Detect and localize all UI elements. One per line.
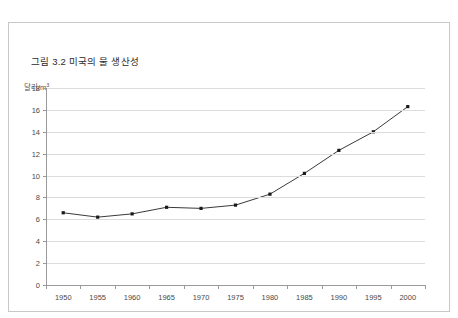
y-gridline <box>46 219 425 220</box>
y-gridline <box>46 88 425 89</box>
x-tick-mark <box>80 285 81 289</box>
water-productivity-line-series <box>46 88 425 285</box>
x-tick-mark <box>184 285 185 289</box>
y-gridline <box>46 263 425 264</box>
x-tick-label: 2000 <box>399 293 416 302</box>
series-data-point <box>303 172 306 175</box>
screenshot-page: · · · · · · · · · · · · · · · · · · · · … <box>0 0 458 318</box>
x-tick-label: 1960 <box>124 293 141 302</box>
y-tick-label: 2 <box>36 259 40 268</box>
x-tick-label: 1975 <box>227 293 244 302</box>
y-tick-label: 16 <box>32 105 40 114</box>
y-axis-unit-superscript: 3 <box>46 82 49 88</box>
y-tick-mark <box>43 197 47 198</box>
x-tick-mark <box>149 285 150 289</box>
y-tick-label: 14 <box>32 127 40 136</box>
y-tick-label: 4 <box>36 237 40 246</box>
figure-title: 그림 3.2 미국의 물 생산성 <box>31 54 139 68</box>
series-data-point <box>62 211 65 214</box>
series-line <box>63 107 408 218</box>
x-tick-mark <box>46 285 47 289</box>
y-gridline <box>46 197 425 198</box>
x-tick-mark <box>356 285 357 289</box>
truncated-header-text: · · · · · · · · · · · · · · · · · · · · … <box>0 0 458 11</box>
y-tick-mark <box>43 88 47 89</box>
y-gridline <box>46 110 425 111</box>
series-data-point <box>199 207 202 210</box>
y-tick-mark <box>43 154 47 155</box>
x-tick-mark <box>391 285 392 289</box>
x-tick-label: 1980 <box>262 293 279 302</box>
y-gridline <box>46 132 425 133</box>
y-tick-label: 6 <box>36 215 40 224</box>
x-tick-label: 1970 <box>193 293 210 302</box>
y-tick-label: 0 <box>36 281 40 290</box>
x-tick-mark <box>322 285 323 289</box>
y-gridline <box>46 241 425 242</box>
y-tick-label: 12 <box>32 149 40 158</box>
y-tick-mark <box>43 176 47 177</box>
y-tick-label: 8 <box>36 193 40 202</box>
x-axis-line <box>46 285 426 286</box>
x-tick-label: 1955 <box>89 293 106 302</box>
y-tick-mark <box>43 219 47 220</box>
x-tick-mark <box>218 285 219 289</box>
x-tick-mark <box>115 285 116 289</box>
series-data-point <box>96 216 99 219</box>
x-tick-label: 1965 <box>158 293 175 302</box>
series-data-point <box>234 204 237 207</box>
series-data-point <box>268 193 271 196</box>
series-data-point <box>337 149 340 152</box>
x-tick-label: 1990 <box>331 293 348 302</box>
y-gridline <box>46 176 425 177</box>
series-data-point <box>406 105 409 108</box>
series-data-point <box>131 212 134 215</box>
y-tick-mark <box>43 110 47 111</box>
y-tick-mark <box>43 263 47 264</box>
y-tick-label: 10 <box>32 171 40 180</box>
x-tick-mark <box>287 285 288 289</box>
x-tick-mark <box>253 285 254 289</box>
x-tick-mark <box>425 285 426 289</box>
x-tick-label: 1995 <box>365 293 382 302</box>
x-tick-label: 1950 <box>55 293 72 302</box>
y-gridline <box>46 154 425 155</box>
y-tick-mark <box>43 132 47 133</box>
series-data-point <box>165 206 168 209</box>
y-tick-label: 18 <box>32 84 40 93</box>
x-tick-label: 1985 <box>296 293 313 302</box>
plot-area: 0246810121416181950195519601965197019751… <box>46 88 425 285</box>
y-tick-mark <box>43 241 47 242</box>
